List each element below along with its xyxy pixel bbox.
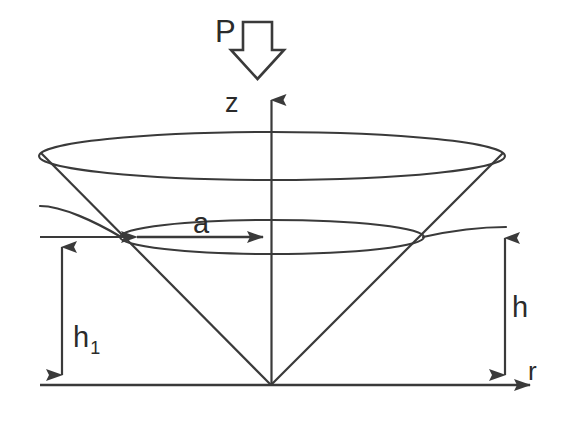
contact-radius-label: a — [193, 209, 209, 238]
r-axis-label: r — [528, 358, 537, 384]
depth-h-label: h — [512, 293, 528, 322]
depth-h1-base: h — [73, 321, 89, 353]
depth-h1-subscript: 1 — [90, 338, 100, 358]
indentation-diagram — [0, 0, 566, 427]
load-label: P — [215, 16, 236, 47]
depth-h1-label: h1 — [73, 323, 99, 352]
surface-profile-left — [40, 206, 124, 237]
load-arrow-icon — [231, 22, 284, 79]
z-axis-label: z — [225, 90, 239, 117]
surface-profile-right — [423, 227, 506, 237]
figure-root: P z r a h h1 — [0, 0, 566, 427]
